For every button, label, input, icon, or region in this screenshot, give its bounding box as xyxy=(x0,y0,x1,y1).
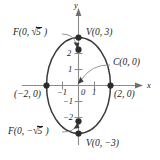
y-tick-label-1: 1 xyxy=(68,65,72,74)
point-focus-upper xyxy=(75,47,81,53)
point-vertex-right xyxy=(107,82,113,88)
origin-label: 0 xyxy=(81,88,85,97)
x-axis-label: x xyxy=(147,81,151,90)
label-focus-upper: F(0, √5 ) xyxy=(13,27,47,38)
y-tick-label-2: 2 xyxy=(67,49,71,58)
label-vertex-top: V(0, 3) xyxy=(86,28,112,38)
label-vertex-bottom: V(0, −3) xyxy=(86,139,119,149)
y-tick-label-neg1: −1 xyxy=(63,97,73,106)
radical-sign-upper: √ xyxy=(31,26,37,38)
label-center: C(0, 0) xyxy=(113,58,140,68)
label-focus-lower: F(0, −√5 ) xyxy=(8,126,49,137)
x-tick-label-neg1: −1 xyxy=(57,88,67,97)
label-vertex-left: (−2, 0) xyxy=(14,90,41,100)
y-axis-label: y xyxy=(74,1,78,10)
ellipse-figure: F(0, √5 ) V(0, 3) C(0, 0) (−2, 0) (2, 0)… xyxy=(0,0,160,160)
point-vertex-bottom xyxy=(75,130,81,136)
y-tick-label-neg2: −2 xyxy=(63,113,73,122)
radical-sign-lower: √ xyxy=(33,125,39,137)
point-vertex-left xyxy=(43,82,49,88)
sqrt-group-upper: √5 xyxy=(31,27,41,38)
point-focus-lower xyxy=(75,118,81,124)
leader-center xyxy=(78,65,110,84)
label-focus-lower-open: (0, − xyxy=(14,126,33,136)
x-tick-label-1: 1 xyxy=(92,88,96,97)
point-vertex-top xyxy=(75,34,81,40)
label-focus-upper-open: (0, xyxy=(19,27,32,37)
label-vertex-right: (2, 0) xyxy=(114,90,135,100)
leader-focus-lower xyxy=(62,123,79,133)
label-focus-upper-close: ) xyxy=(42,27,48,37)
x-axis-arrowhead xyxy=(135,83,143,89)
sqrt-group-lower: √5 xyxy=(33,126,43,137)
label-focus-lower-close: ) xyxy=(43,126,49,136)
